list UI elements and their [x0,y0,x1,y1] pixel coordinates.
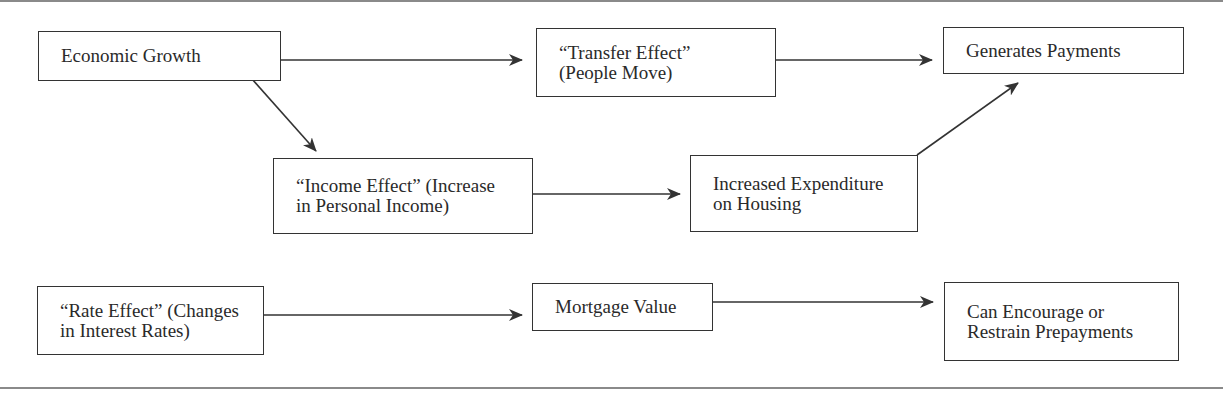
node-label: “Income Effect” (Increase in Personal In… [296,176,495,216]
node-label: Generates Payments [966,41,1121,61]
node-economic-growth: Economic Growth [38,31,281,81]
node-label: Economic Growth [61,46,201,66]
node-label: Mortgage Value [555,297,677,317]
node-income-effect: “Income Effect” (Increase in Personal In… [273,158,533,234]
node-label: Can Encourage or Restrain Prepayments [967,302,1133,342]
node-label: Increased Expenditure on Housing [713,174,883,214]
node-label: “Transfer Effect” (People Move) [559,43,690,83]
arrow-increased-expenditure-to-generates-payments [917,83,1018,155]
node-label: “Rate Effect” (Changes in Interest Rates… [60,301,239,341]
node-rate-effect: “Rate Effect” (Changes in Interest Rates… [37,286,264,355]
node-increased-expenditure: Increased Expenditure on Housing [690,155,918,232]
node-generates-payments: Generates Payments [943,27,1184,74]
node-transfer-effect: “Transfer Effect” (People Move) [536,28,776,97]
node-can-encourage: Can Encourage or Restrain Prepayments [944,282,1179,361]
arrow-economic-growth-to-income-effect [252,79,316,151]
node-mortgage-value: Mortgage Value [532,283,713,331]
